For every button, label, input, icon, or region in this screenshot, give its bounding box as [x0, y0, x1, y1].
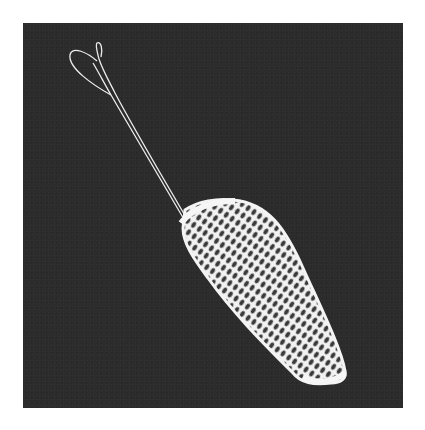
drawstring-cord	[70, 43, 187, 221]
net-pouch	[173, 193, 363, 393]
photograph: Black-and-white photograph of a white cr…	[23, 23, 403, 408]
pouch-illustration	[23, 23, 403, 408]
